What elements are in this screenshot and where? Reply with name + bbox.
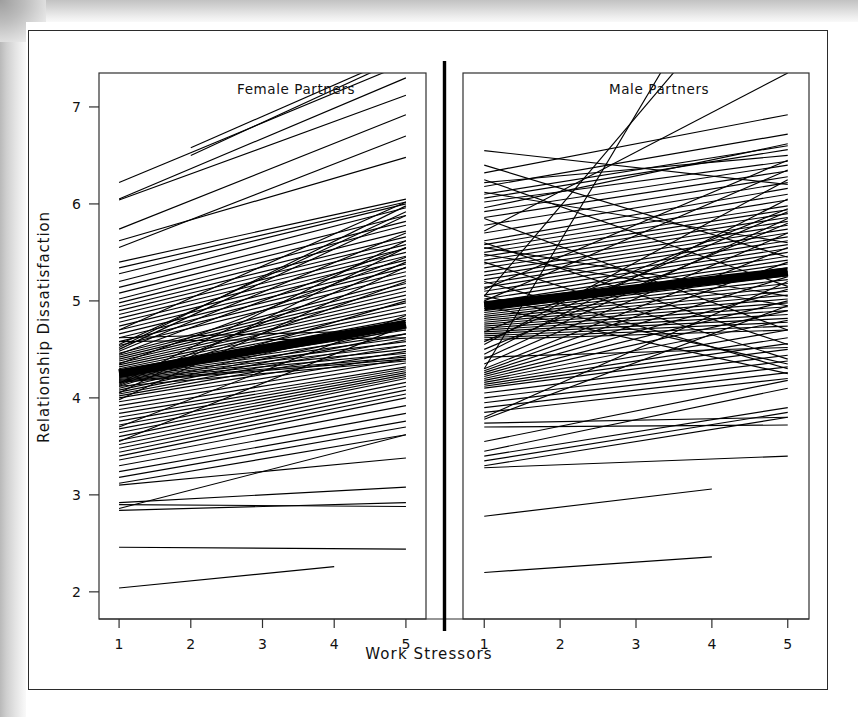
y-tick-label: 4 [72, 390, 81, 406]
spaghetti-plot-svg: 1234512345234567 [29, 31, 829, 691]
panel-title-female: Female Partners [237, 81, 355, 97]
y-tick-label: 6 [72, 196, 81, 212]
subject-line [119, 249, 406, 319]
subject-line [484, 115, 788, 173]
y-tick-label: 3 [72, 487, 81, 503]
subject-line [119, 487, 406, 503]
y-tick-label: 2 [72, 584, 81, 600]
subject-line [484, 155, 788, 182]
subject-line [484, 144, 788, 208]
subject-line [484, 489, 712, 516]
y-tick-label: 5 [72, 293, 81, 309]
subject-line [484, 456, 788, 468]
subject-line [484, 171, 788, 218]
subject-line [484, 378, 788, 412]
panel-title-male: Male Partners [609, 81, 709, 97]
subject-line [119, 435, 406, 483]
subject-line [484, 557, 712, 573]
subject-line [119, 378, 406, 436]
subject-line [119, 547, 406, 549]
subject-line [119, 157, 406, 240]
subject-line [484, 225, 788, 272]
tick-labels: 1234512345234567 [72, 99, 792, 652]
subject-line [191, 57, 406, 156]
subject-line [484, 221, 788, 268]
subject-line [191, 54, 406, 148]
subject-line [119, 237, 406, 307]
subject-line [119, 95, 406, 200]
subject-line [484, 206, 788, 253]
y-tick-label: 7 [72, 99, 81, 115]
y-axis-label: Relationship Dissatisfaction [35, 137, 53, 517]
subject-line [484, 245, 788, 292]
subject-line [119, 567, 334, 588]
subject-line [484, 150, 788, 198]
female-panel-lines [119, 54, 406, 588]
subject-line [484, 425, 788, 427]
figure-outer-frame: 1234512345234567 Female Partners Male Pa… [28, 30, 828, 690]
x-axis-label: Work Stressors [0, 645, 858, 663]
male-panel-lines [484, 63, 788, 572]
subject-line [119, 245, 406, 315]
